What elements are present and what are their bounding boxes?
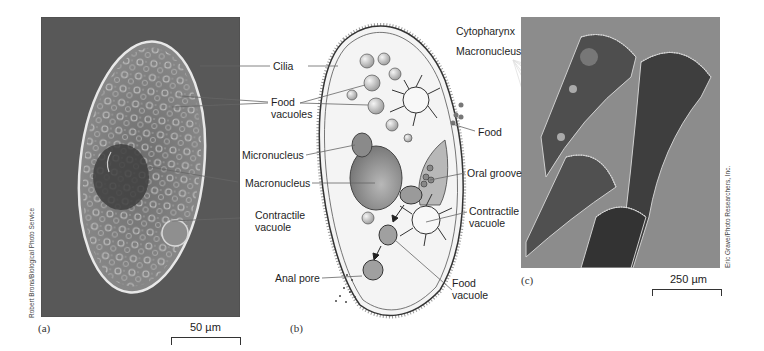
stentor-photo: [521, 17, 720, 268]
label-micronucleus: Micronucleus: [242, 149, 304, 161]
label-food: Food: [478, 126, 502, 138]
label-contractile-vacuole-right-line1: Contractile: [469, 205, 519, 217]
panel-label-b: (b): [290, 322, 303, 334]
micrograph-c: [521, 17, 720, 268]
label-cytopharynx: Cytopharynx: [456, 25, 515, 37]
label-food-vacuoles-line1: Food: [271, 96, 295, 108]
label-contractile-vacuole-right: Contractile vacuole: [469, 205, 519, 229]
label-macronucleus-c: Macronucleus: [456, 45, 521, 57]
label-oral-groove: Oral groove: [467, 167, 522, 179]
label-food-vacuole-right-line2: vacuole: [452, 289, 488, 301]
label-contractile-vacuole-right-line2: vacuole: [469, 217, 505, 229]
scale-bar-c: [652, 289, 722, 296]
label-anal-pore: Anal pore: [275, 272, 320, 284]
label-contractile-vacuole-line2: vacuole: [255, 221, 291, 233]
panel-label-c: (c): [521, 274, 533, 286]
photo-credit-c: Eric Grave/Photo Researchers, Inc.: [724, 166, 731, 268]
label-food-vacuoles: Food vacuoles: [271, 96, 312, 120]
label-contractile-vacuole-line1: Contractile: [255, 209, 305, 221]
label-macronucleus: Macronucleus: [245, 177, 310, 189]
label-food-vacuole-right: Food vacuole: [452, 277, 488, 301]
label-cilia: Cilia: [273, 60, 293, 72]
label-contractile-vacuole: Contractile vacuole: [255, 209, 305, 233]
label-food-vacuole-right-line1: Food: [452, 277, 476, 289]
label-food-vacuoles-line2: vacuoles: [271, 108, 312, 120]
scale-bar-label-c: 250 µm: [670, 273, 707, 285]
